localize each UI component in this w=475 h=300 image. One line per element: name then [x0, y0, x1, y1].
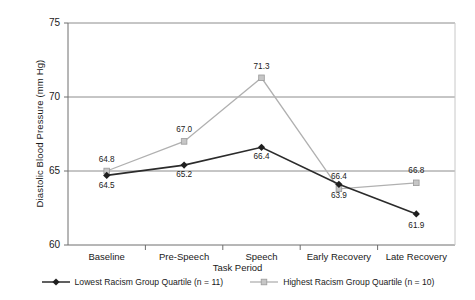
legend-marker-square-icon — [249, 277, 279, 287]
series-highest-racism-quartile — [104, 75, 419, 192]
data-label-lowest-early-recovery: 63.9 — [325, 191, 353, 200]
chart-figure: Diastolic Blood Pressure (mm Hg) 75 70 6… — [0, 0, 475, 300]
y-tick-label-70: 70 — [38, 91, 60, 102]
data-label-highest-speech: 71.3 — [248, 62, 276, 71]
legend-label-highest: Highest Racism Group Quartile (n = 10) — [283, 277, 434, 287]
x-tick-label-late-recovery: Late Recovery — [373, 251, 459, 262]
marker-highest-pre-speech — [181, 139, 187, 145]
data-label-lowest-late-recovery: 61.9 — [402, 221, 430, 230]
legend-marker-diamond-icon — [41, 277, 71, 287]
data-label-highest-early-recovery: 66.4 — [325, 172, 353, 181]
y-tick-label-75: 75 — [38, 17, 60, 28]
x-tick-label-baseline: Baseline — [67, 251, 147, 262]
x-tick-label-early-recovery: Early Recovery — [295, 251, 383, 262]
data-label-highest-late-recovery: 66.8 — [402, 166, 430, 175]
data-label-lowest-pre-speech: 65.2 — [170, 170, 198, 179]
marker-highest-speech — [259, 75, 265, 81]
series-highest-line — [107, 78, 417, 189]
chart-legend: Lowest Racism Group Quartile (n = 11) Hi… — [0, 277, 475, 287]
data-label-highest-baseline: 64.8 — [93, 155, 121, 164]
y-axis-ticks — [64, 23, 68, 245]
data-label-lowest-speech: 66.4 — [248, 152, 276, 161]
data-label-lowest-baseline: 64.5 — [93, 181, 121, 190]
data-label-highest-pre-speech: 67.0 — [170, 125, 198, 134]
x-tick-label-speech: Speech — [222, 251, 302, 262]
legend-label-lowest: Lowest Racism Group Quartile (n = 11) — [75, 277, 224, 287]
marker-lowest-late-recovery — [413, 210, 420, 217]
marker-lowest-pre-speech — [181, 162, 188, 169]
marker-lowest-speech — [258, 144, 265, 151]
legend-item-highest-racism-quartile[interactable]: Highest Racism Group Quartile (n = 10) — [249, 277, 434, 287]
x-axis-ticks — [145, 245, 377, 250]
y-tick-label-60: 60 — [38, 239, 60, 250]
marker-highest-late-recovery — [414, 180, 420, 186]
grid-lines — [68, 23, 455, 245]
y-tick-label-65: 65 — [38, 165, 60, 176]
x-axis-title: Task Period — [0, 262, 475, 273]
x-tick-label-pre-speech: Pre-Speech — [144, 251, 224, 262]
y-axis-title: Diastolic Blood Pressure (mm Hg) — [34, 29, 45, 239]
axis-lines — [68, 23, 455, 245]
legend-item-lowest-racism-quartile[interactable]: Lowest Racism Group Quartile (n = 11) — [41, 277, 224, 287]
